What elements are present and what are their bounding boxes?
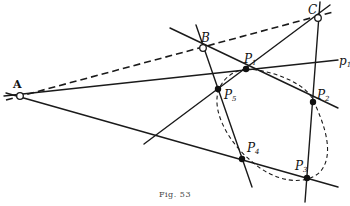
label-p2: P2: [316, 88, 330, 103]
label-line-p1: p1: [339, 54, 350, 69]
line-a-p4-p3: [6, 93, 338, 187]
point-a: [17, 93, 24, 100]
point-b: [200, 45, 207, 52]
point-p2: [310, 99, 316, 105]
label-b: B: [200, 31, 210, 45]
point-p1: [243, 66, 249, 72]
label-a: A: [12, 78, 22, 91]
dashed-line-abc: [6, 12, 333, 100]
point-p3: [304, 175, 310, 181]
line-p1: [4, 60, 338, 96]
label-p5: P5: [223, 88, 237, 103]
figure-caption: Fig. 53: [0, 190, 350, 199]
figure-53: A B C P1 P2 P3 P4 P5 p1 Fig. 53: [0, 0, 350, 206]
label-p3: P3: [294, 159, 308, 174]
diagram-canvas: A B C P1 P2 P3 P4 P5 p1: [0, 0, 350, 206]
point-p4: [239, 156, 245, 162]
label-c: C: [308, 3, 317, 17]
line-c-p1-p5: [144, 5, 330, 144]
point-p5: [215, 86, 221, 92]
label-p4: P4: [246, 141, 260, 156]
label-p1: P1: [243, 52, 257, 67]
